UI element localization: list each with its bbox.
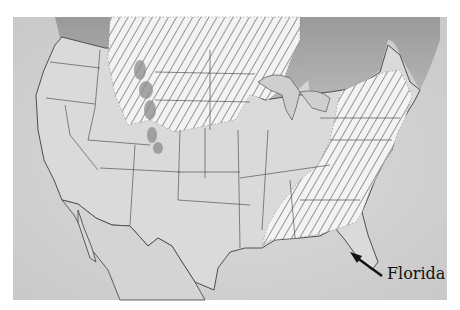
- florida-label: Florida: [387, 264, 445, 283]
